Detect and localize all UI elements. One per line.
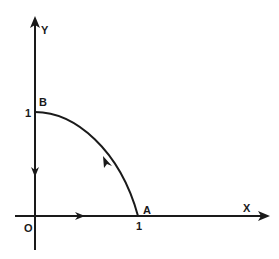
x-axis-label: X xyxy=(243,203,250,214)
origin-label: O xyxy=(24,223,33,234)
x-tick-1-label: 1 xyxy=(136,221,142,232)
path-diagram: Y X O B 1 A 1 xyxy=(0,0,279,259)
y-tick-1-label: 1 xyxy=(25,108,31,119)
curve-a-to-b xyxy=(35,112,138,216)
y-axis-label: Y xyxy=(41,25,48,36)
point-a-label: A xyxy=(143,205,151,216)
point-b-label: B xyxy=(39,97,47,108)
